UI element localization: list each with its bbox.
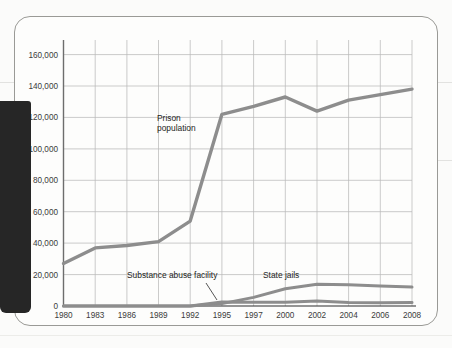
x-tick-label: 1980 — [54, 311, 73, 320]
x-axis-tick-labels: 1980198319861989199219951997200020022004… — [54, 311, 421, 320]
line-chart: 020,00040,00060,00080,000100,000120,0001… — [0, 0, 452, 348]
y-tick-label: 40,000 — [33, 239, 58, 248]
y-tick-label: 20,000 — [33, 271, 58, 280]
x-tick-label: 1986 — [118, 311, 137, 320]
y-tick-label: 0 — [53, 302, 58, 311]
x-tick-label: 2002 — [308, 311, 327, 320]
series-lines — [64, 89, 413, 306]
x-tick-label: 1995 — [213, 311, 232, 320]
series-line-prison-population — [64, 89, 413, 264]
y-tick-label: 100,000 — [28, 145, 58, 154]
y-tick-label: 60,000 — [33, 208, 58, 217]
page-binding-shadow — [0, 101, 31, 313]
series-line-substance-abuse-facility — [64, 301, 413, 306]
annotation-prison-population-line2: population — [157, 123, 196, 133]
x-tick-label: 2000 — [276, 311, 295, 320]
substance-abuse-facility-leader-line — [206, 283, 217, 300]
x-tick-label: 2008 — [403, 311, 422, 320]
y-tick-label: 160,000 — [28, 51, 58, 60]
x-tick-label: 2004 — [339, 311, 358, 320]
x-tick-label: 1997 — [244, 311, 263, 320]
x-tick-label: 1992 — [181, 311, 200, 320]
y-tick-label: 80,000 — [33, 176, 58, 185]
x-tick-label: 1989 — [149, 311, 168, 320]
y-tick-label: 120,000 — [28, 113, 58, 122]
annotation-state-jails: State jails — [263, 270, 299, 280]
annotation-prison-population-line1: Prison — [157, 113, 181, 123]
gridlines — [64, 40, 413, 306]
y-axis-tick-labels: 020,00040,00060,00080,000100,000120,0001… — [28, 51, 58, 311]
x-tick-label: 2006 — [371, 311, 390, 320]
y-tick-label: 140,000 — [28, 82, 58, 91]
annotation-substance-abuse-facility: Substance abuse facility — [127, 270, 218, 280]
x-tick-label: 1983 — [86, 311, 105, 320]
scanned-page: 020,00040,00060,00080,000100,000120,0001… — [0, 0, 452, 348]
